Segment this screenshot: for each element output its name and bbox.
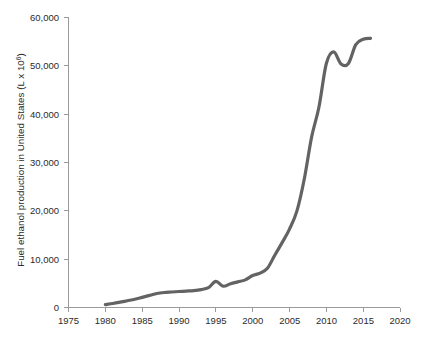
y-axis-title-group: Fuel ethanol production in United States…: [15, 53, 27, 267]
x-axis: 1975 1980 1985 1990 1995 2000 2005 2010 …: [58, 308, 411, 327]
data-series-line: [105, 38, 370, 304]
y-tick-marks: [64, 18, 69, 308]
y-axis-title-suffix: ): [15, 53, 26, 56]
x-tick-label-1995: 1995: [205, 315, 226, 326]
x-tick-label-2000: 2000: [242, 315, 263, 326]
y-tick-label-60000: 60,000: [30, 12, 59, 23]
x-tick-marks: [69, 308, 401, 313]
y-tick-label-40000: 40,000: [30, 109, 59, 120]
x-tick-labels: 1975 1980 1985 1990 1995 2000 2005 2010 …: [58, 315, 411, 326]
ethanol-production-line-chart: Fuel ethanol production in United States…: [0, 0, 422, 344]
y-tick-label-10000: 10,000: [30, 254, 59, 265]
x-tick-label-2010: 2010: [316, 315, 337, 326]
x-tick-label-2015: 2015: [353, 315, 374, 326]
x-tick-label-1975: 1975: [58, 315, 79, 326]
y-axis-title: Fuel ethanol production in United States…: [15, 53, 27, 267]
y-tick-label-0: 0: [54, 302, 59, 313]
x-tick-label-2020: 2020: [389, 315, 410, 326]
y-tick-label-20000: 20,000: [30, 205, 59, 216]
y-axis: 60,000 50,000 40,000 30,000 20,000 10,00…: [30, 12, 69, 313]
y-tick-label-50000: 50,000: [30, 60, 59, 71]
y-tick-labels: 60,000 50,000 40,000 30,000 20,000 10,00…: [30, 12, 59, 313]
y-axis-title-main: Fuel ethanol production in United States…: [15, 60, 26, 267]
x-tick-label-1990: 1990: [169, 315, 190, 326]
x-tick-label-1985: 1985: [132, 315, 153, 326]
chart-container: Fuel ethanol production in United States…: [0, 0, 422, 344]
x-tick-label-2005: 2005: [279, 315, 300, 326]
x-tick-label-1980: 1980: [95, 315, 116, 326]
y-tick-label-30000: 30,000: [30, 157, 59, 168]
